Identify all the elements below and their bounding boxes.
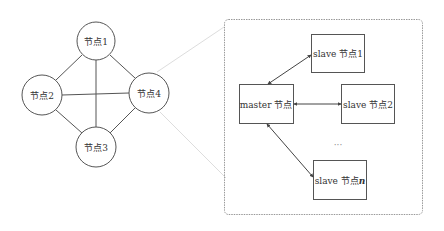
slave-node-n-label: slave 节点n bbox=[315, 174, 366, 187]
master-node-label: master 节点 bbox=[240, 98, 293, 111]
cluster-edges bbox=[56, 55, 135, 133]
link-master-slaven bbox=[267, 124, 313, 177]
cluster-node-4-label: 节点4 bbox=[137, 87, 161, 100]
cluster-node-2-label: 节点2 bbox=[30, 89, 54, 102]
cluster-node-1-label: 节点1 bbox=[84, 35, 108, 48]
zoom-guide-bottom bbox=[160, 112, 226, 178]
cluster-node-3-label: 节点3 bbox=[84, 141, 108, 154]
link-master-slave1 bbox=[268, 55, 311, 84]
slave-node-1-label: slave 节点1 bbox=[313, 47, 363, 60]
slave-node-2-label: slave 节点2 bbox=[343, 98, 393, 111]
diagram-canvas bbox=[0, 0, 444, 231]
ellipsis: ··· bbox=[334, 140, 343, 150]
zoom-guide-top bbox=[157, 27, 224, 72]
